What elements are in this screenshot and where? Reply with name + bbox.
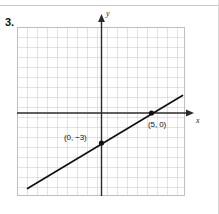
y-axis-label: y [106, 9, 110, 18]
point-x-intercept [149, 110, 154, 115]
point-label-x-intercept: (5, 0) [148, 120, 166, 129]
data-line [28, 96, 183, 189]
point-y-intercept [99, 140, 104, 145]
point-label-y-intercept: (0, −3) [64, 133, 87, 142]
axes-and-data-layer [0, 0, 219, 214]
x-axis [17, 110, 194, 117]
graph-figure: 3. y x ( [0, 0, 219, 214]
x-axis-label: x [196, 116, 200, 125]
y-axis [98, 14, 105, 196]
